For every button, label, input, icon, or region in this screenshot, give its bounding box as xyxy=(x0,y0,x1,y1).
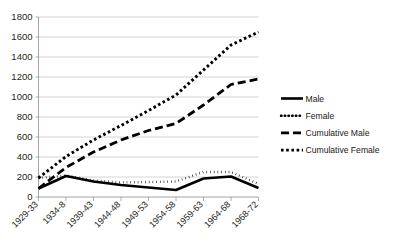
y-axis-tick-labels: 020040060080010001200140016001800 xyxy=(11,11,32,202)
x-tick-label: 1964-68 xyxy=(202,199,232,229)
x-tick-label: 1934-8 xyxy=(41,199,68,226)
y-tick-label: 400 xyxy=(17,151,33,162)
y-tick-label: 1400 xyxy=(11,51,32,62)
y-tick-label: 200 xyxy=(17,171,33,182)
x-tick-label: 1949-53 xyxy=(119,199,149,229)
x-tick-label: 1959-63 xyxy=(174,199,204,229)
x-tick-label: 1954-58 xyxy=(147,199,177,229)
line-chart: 020040060080010001200140016001800 1929-3… xyxy=(0,0,409,250)
chart-legend: MaleFemaleCumulative MaleCumulative Fema… xyxy=(281,94,380,156)
y-tick-label: 1800 xyxy=(11,11,32,22)
series-line-male xyxy=(39,176,259,190)
x-tick-label: 1929-33 xyxy=(9,199,39,229)
legend-label: Cumulative Male xyxy=(306,128,370,138)
x-axis-tick-labels: 1929-331934-81939-431944-481949-531954-5… xyxy=(9,199,259,229)
legend-label: Female xyxy=(306,111,335,121)
y-tick-label: 1200 xyxy=(11,71,32,82)
series-line-cumulative-female xyxy=(39,32,259,178)
x-tick-label: 1968-72 xyxy=(229,199,259,229)
y-tick-label: 1600 xyxy=(11,31,32,42)
x-tick-label: 1939-43 xyxy=(64,199,94,229)
y-tick-label: 1000 xyxy=(11,91,32,102)
x-tick-label: 1944-48 xyxy=(92,199,122,229)
chart-canvas: 020040060080010001200140016001800 1929-3… xyxy=(0,0,409,250)
gridlines-group xyxy=(39,17,259,177)
data-series-group xyxy=(39,32,259,190)
y-tick-label: 800 xyxy=(17,111,33,122)
y-tick-label: 600 xyxy=(17,131,33,142)
legend-label: Cumulative Female xyxy=(306,145,380,155)
legend-label: Male xyxy=(306,94,325,104)
